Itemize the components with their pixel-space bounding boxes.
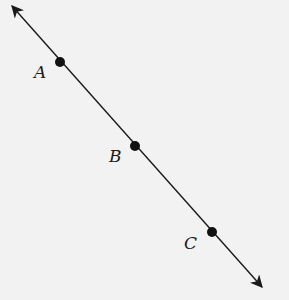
point-b-dot — [130, 141, 140, 151]
point-a-dot — [55, 57, 65, 67]
point-b-label: B — [109, 148, 122, 165]
point-c-dot — [207, 227, 217, 237]
line-diagram — [0, 0, 289, 300]
point-a-label: A — [34, 64, 46, 81]
point-c-label: C — [184, 235, 197, 252]
